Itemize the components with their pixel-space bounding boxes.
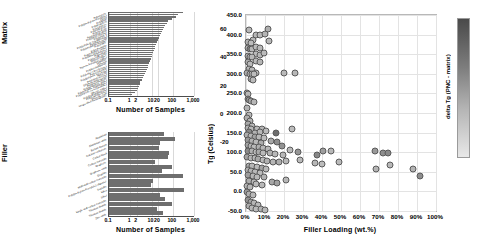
colorbar-tick-label: -20 — [220, 139, 229, 145]
axis-tick-label: 20 — [154, 97, 160, 103]
scatter-panel: -50.00.050.0100.0150.0200.0250.0300.0350… — [205, 4, 487, 250]
scatter-point — [272, 130, 279, 137]
axis-tick-label: 2 — [134, 97, 137, 103]
scatter-point — [292, 70, 299, 77]
axis-tick-label: 100% — [427, 213, 443, 220]
bar — [109, 94, 132, 95]
grid-line — [246, 172, 436, 173]
axis-tick-label: 400.0 — [227, 30, 242, 37]
bar — [109, 137, 175, 141]
scatter-point — [273, 179, 280, 186]
grid-line — [246, 54, 436, 55]
bar-row — [109, 211, 194, 216]
matrix-x-axis-title: Number of Samples — [108, 106, 193, 113]
scatter-point — [250, 99, 257, 106]
axis-tick-label: 80% — [391, 213, 403, 220]
filler-bar-panel: Filler AluminiumAluminium oxideBarium ti… — [0, 126, 200, 250]
colorbar-tick-label: 20 — [220, 83, 227, 89]
grid-line — [194, 12, 195, 96]
axis-tick-label: 1,000 — [187, 97, 200, 103]
scatter-point — [319, 160, 326, 167]
axis-tick-label: 1 — [128, 97, 131, 103]
axis-tick-label: 50% — [334, 213, 346, 220]
matrix-bar-panel: Matrix PolystyrenePoly(methyl methacryla… — [0, 0, 200, 120]
scatter-point — [282, 177, 289, 184]
bar — [109, 179, 153, 183]
axis-tick-label: 70% — [372, 213, 384, 220]
axis-tick-label: 0% — [241, 213, 250, 220]
colorbar-tick-label: 40 — [220, 54, 227, 60]
scatter-point — [384, 149, 391, 156]
colorbar-tick-label: 60 — [220, 26, 227, 32]
scatter-point — [278, 142, 285, 149]
axis-tick-label: 20 — [154, 217, 160, 223]
grid-line — [246, 211, 436, 212]
scatter-point — [271, 150, 278, 157]
bar — [109, 207, 157, 211]
grid-line — [246, 113, 436, 114]
bar — [109, 197, 165, 201]
bar — [109, 174, 183, 178]
figure-root: Matrix PolystyrenePoly(methyl methacryla… — [0, 0, 487, 250]
scatter-point — [263, 165, 270, 172]
grid-line — [246, 15, 436, 16]
colorbar-title: delta Tg (PNC - matrix) — [445, 18, 451, 156]
axis-tick-label: 100 — [167, 97, 176, 103]
grid-line — [194, 132, 195, 216]
bar — [109, 169, 162, 173]
scatter-plot-area — [245, 14, 437, 212]
scatter-point — [336, 159, 343, 166]
bar — [109, 188, 184, 192]
grid-line — [246, 191, 436, 192]
bar — [109, 183, 151, 187]
scatter-point — [259, 182, 266, 189]
matrix-bars — [108, 12, 194, 97]
axis-tick-label: 1,000 — [187, 217, 200, 223]
scatter-point — [262, 128, 269, 135]
scatter-point — [373, 166, 380, 173]
axis-tick-label: 20% — [277, 213, 289, 220]
scatter-point — [266, 38, 273, 45]
axis-tick-label: 0.1 — [104, 217, 111, 223]
axis-tick-label: 50.0 — [230, 167, 242, 174]
scatter-point — [243, 104, 250, 111]
scatter-point — [410, 165, 417, 172]
bar — [109, 141, 160, 145]
axis-tick-label: 1 — [128, 217, 131, 223]
axis-tick-label: 100.0 — [227, 148, 242, 155]
axis-tick-label: 60% — [353, 213, 365, 220]
bar — [109, 132, 164, 136]
scatter-point — [245, 26, 252, 33]
scatter-point — [286, 146, 293, 153]
scatter-point — [282, 157, 289, 164]
scatter-point — [249, 77, 256, 84]
axis-tick-label: 450.0 — [227, 11, 242, 18]
scatter-point — [387, 161, 394, 168]
axis-tick-label: 10 — [148, 217, 154, 223]
scatter-point — [319, 147, 326, 154]
scatter-point — [256, 58, 263, 65]
grid-line — [436, 15, 437, 211]
bar — [109, 151, 169, 155]
scatter-point — [295, 149, 302, 156]
axis-tick-label: 10% — [258, 213, 270, 220]
bar-row — [109, 94, 194, 96]
scatter-point — [297, 157, 304, 164]
scatter-point — [264, 26, 271, 33]
scatter-point — [372, 147, 379, 154]
axis-tick-label: 30% — [296, 213, 308, 220]
axis-tick-label: 350.0 — [227, 50, 242, 57]
scatter-point — [261, 50, 268, 57]
axis-tick-label: 250.0 — [227, 89, 242, 96]
grid-line — [246, 35, 436, 36]
bar — [109, 202, 172, 206]
matrix-category-labels: PolystyrenePoly(methyl methacrylate)Epox… — [12, 12, 107, 96]
axis-tick-label: 90% — [410, 213, 422, 220]
bar — [109, 211, 163, 215]
grid-line — [246, 93, 436, 94]
axis-tick-label: 200.0 — [227, 109, 242, 116]
colorbar — [457, 18, 470, 158]
axis-tick-label: 2 — [134, 217, 137, 223]
axis-tick-label: 0.0 — [233, 187, 242, 194]
filler-x-axis-title: Number of Samples — [108, 226, 193, 233]
